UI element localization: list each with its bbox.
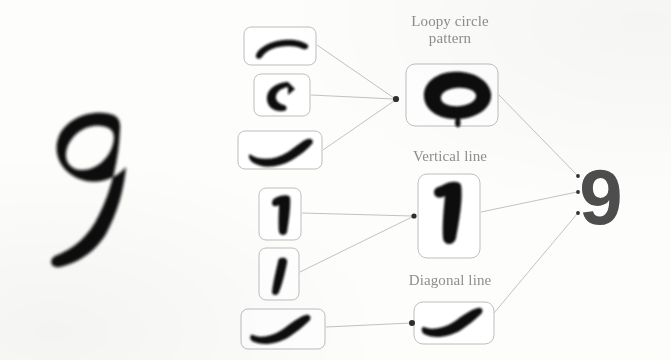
input-digit-9-glyph	[51, 113, 126, 268]
node-dot-loopy[interactable]	[393, 96, 399, 102]
edge-arc-to-loopy	[317, 45, 394, 98]
feature-label-vertical-line: Vertical line	[370, 148, 530, 165]
edge-swoosh-to-loopy	[323, 101, 394, 150]
edge-hook-to-vertical	[302, 213, 412, 216]
feature-label-loopy-circle-pattern: Loopy circle pattern	[370, 13, 530, 47]
node-dot-vertical[interactable]	[411, 213, 416, 218]
diagram-canvas: 9 Loopy circle pattern Vertical line Dia…	[0, 0, 671, 360]
node-dot-diagonal[interactable]	[409, 320, 415, 326]
output-digit-9-glyph: 9	[579, 153, 622, 241]
diagram-vector-layer: 9	[0, 0, 671, 360]
feature-label-diagonal-line: Diagonal line	[370, 272, 530, 289]
stroke-box-group	[238, 27, 325, 349]
edge-c-to-loopy	[311, 95, 394, 99]
input-digit-9	[51, 113, 126, 268]
edge-diag-to-diagonal	[326, 323, 411, 327]
edge-slant-to-vertical	[300, 217, 412, 272]
edge-diagonal-to-out	[494, 214, 577, 313]
output-digit-9: 9	[579, 153, 622, 241]
edge-vertical-to-out	[481, 192, 577, 212]
stroke-box-diag-curve[interactable]	[241, 309, 325, 349]
